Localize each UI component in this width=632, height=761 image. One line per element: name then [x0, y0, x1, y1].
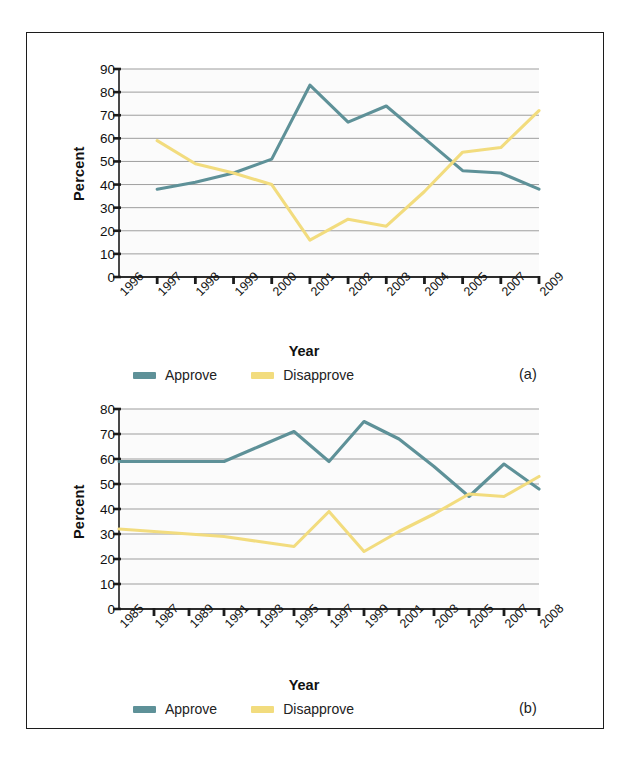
- y-axis-ticks-a: 0102030405060708090: [71, 69, 115, 277]
- line-chart-a: [119, 69, 539, 277]
- y-tick-label: 70: [75, 108, 115, 123]
- series-line-disapprove: [157, 111, 539, 240]
- y-tick-label: 60: [75, 452, 115, 467]
- panel-tag-b: (b): [519, 700, 537, 716]
- series-line-disapprove: [119, 477, 539, 552]
- y-tick-label: 80: [75, 402, 115, 417]
- y-tick-label: 40: [75, 177, 115, 192]
- legend-b: Approve Disapprove: [133, 701, 378, 717]
- y-tick-label: 0: [75, 270, 115, 285]
- y-tick-label: 60: [75, 131, 115, 146]
- y-tick-label: 10: [75, 577, 115, 592]
- y-tick-label: 90: [75, 62, 115, 77]
- series-line-approve: [157, 85, 539, 189]
- y-tick-label: 30: [75, 527, 115, 542]
- y-tick-label: 70: [75, 427, 115, 442]
- legend-a: Approve Disapprove: [133, 367, 378, 383]
- x-tick-label: 2009: [537, 269, 567, 299]
- y-tick-label: 30: [75, 200, 115, 215]
- x-axis-ticks-b: 1985198719891991199319951997199920012003…: [119, 617, 539, 673]
- y-tick-label: 50: [75, 154, 115, 169]
- y-tick-label: 0: [75, 602, 115, 617]
- legend-item-approve-a: Approve: [133, 367, 217, 383]
- legend-swatch-disapprove-icon: [251, 706, 274, 713]
- y-axis-ticks-b: 01020304050607080: [71, 409, 115, 609]
- plot-area-b: [119, 409, 539, 609]
- y-tick-label: 10: [75, 246, 115, 261]
- y-tick-label: 40: [75, 502, 115, 517]
- legend-swatch-approve-icon: [133, 706, 156, 713]
- figure-frame: Percent 0102030405060708090 199619971998…: [26, 32, 604, 729]
- line-chart-b: [119, 409, 539, 609]
- y-tick-label: 20: [75, 223, 115, 238]
- legend-item-approve-b: Approve: [133, 701, 217, 717]
- y-tick-label: 80: [75, 85, 115, 100]
- legend-label-disapprove: Disapprove: [283, 367, 354, 383]
- x-axis-title-b: Year: [15, 677, 593, 693]
- chart-panel-b: Percent 01020304050607080 19851987198919…: [27, 389, 605, 726]
- y-tick-label: 20: [75, 552, 115, 567]
- legend-swatch-approve-icon: [133, 372, 156, 379]
- legend-swatch-disapprove-icon: [251, 372, 274, 379]
- plot-area-a: [119, 69, 539, 277]
- legend-label-approve: Approve: [165, 367, 217, 383]
- y-tick-label: 50: [75, 477, 115, 492]
- legend-item-disapprove-b: Disapprove: [251, 701, 354, 717]
- legend-label-approve: Approve: [165, 701, 217, 717]
- legend-item-disapprove-a: Disapprove: [251, 367, 354, 383]
- chart-panel-a: Percent 0102030405060708090 199619971998…: [27, 37, 605, 385]
- x-axis-ticks-a: 1996199719981999200020012002200320042005…: [119, 285, 539, 341]
- x-tick-label: 2008: [537, 601, 567, 631]
- panel-tag-a: (a): [519, 366, 537, 382]
- x-axis-title-a: Year: [15, 343, 593, 359]
- legend-label-disapprove: Disapprove: [283, 701, 354, 717]
